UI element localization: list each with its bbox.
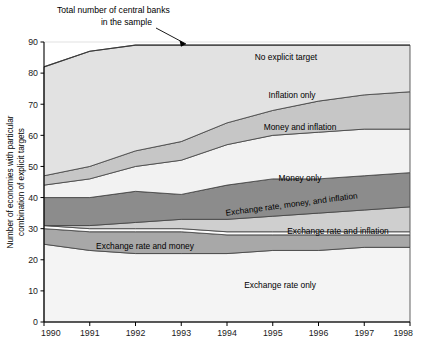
x-tick-label-1992: 1992 — [126, 328, 146, 338]
x-tick-label-1997: 1997 — [354, 328, 374, 338]
x-tick-labels: 199019911992199319941995199619971998 — [41, 328, 413, 338]
stacked-area-chart: 0102030405060708090 19901991199219931994… — [0, 0, 424, 357]
y-tick-label-60: 60 — [28, 131, 38, 141]
band-label-no_explicit_target: No explicit target — [255, 52, 318, 62]
band-label-er_and_money: Exchange rate and money — [96, 241, 195, 251]
band-label-er_only: Exchange rate only — [244, 280, 317, 290]
x-tick-label-1990: 1990 — [41, 328, 61, 338]
y-tick-label-40: 40 — [28, 193, 38, 203]
x-tick-label-1993: 1993 — [171, 328, 191, 338]
y-axis-title-line2: combination of explicit targets — [17, 128, 26, 236]
band-label-money_only: Money only — [279, 173, 323, 183]
band-label-inflation_only: Inflation only — [268, 90, 316, 100]
y-tick-label-0: 0 — [33, 317, 38, 327]
y-tick-label-30: 30 — [28, 224, 38, 234]
y-tick-label-10: 10 — [28, 286, 38, 296]
x-tick-label-1998: 1998 — [393, 328, 413, 338]
x-tick-label-1994: 1994 — [217, 328, 237, 338]
y-axis-title-line1: Number of economies with particular — [6, 115, 15, 248]
y-tick-label-80: 80 — [28, 68, 38, 78]
y-tick-label-50: 50 — [28, 162, 38, 172]
x-tick-label-1995: 1995 — [263, 328, 283, 338]
total-annotation-line1: Total number of central banks — [57, 5, 170, 15]
band-er_only — [44, 244, 410, 322]
area-bands — [44, 45, 410, 322]
x-tick-label-1991: 1991 — [80, 328, 100, 338]
total-annotation-line2: in the sample — [101, 17, 152, 27]
y-tick-label-90: 90 — [28, 37, 38, 47]
band-label-money_and_inflation: Money and inflation — [264, 122, 337, 132]
y-tick-label-70: 70 — [28, 100, 38, 110]
x-tick-label-1996: 1996 — [309, 328, 329, 338]
band-label-er_and_inflation: Exchange rate and inflation — [287, 226, 389, 236]
y-tick-label-20: 20 — [28, 255, 38, 265]
